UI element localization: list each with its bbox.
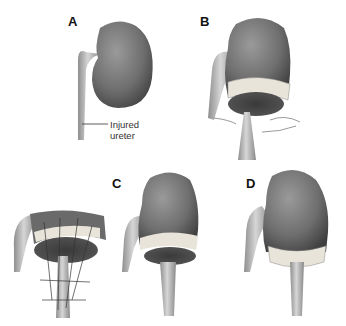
panel-c-closeup xyxy=(14,210,106,318)
panel-label-a: A xyxy=(68,14,77,29)
panel-label-d: D xyxy=(246,176,255,191)
ureter xyxy=(290,262,304,316)
panel-label-c: C xyxy=(112,176,121,191)
ureter xyxy=(238,112,256,160)
panel-c-kidney xyxy=(122,172,198,316)
sutures xyxy=(214,117,300,132)
annotation-line-1: Injured xyxy=(110,119,139,130)
panel-b-kidney xyxy=(208,18,300,160)
annotation-injured-ureter: Injured ureter xyxy=(110,119,139,141)
panel-d-kidney xyxy=(244,170,328,316)
cut-surface xyxy=(228,92,284,116)
kidney xyxy=(92,21,153,108)
kidney xyxy=(263,170,328,252)
ureter xyxy=(160,262,176,316)
surgical-illustration xyxy=(0,0,346,326)
annotation-line-2: ureter xyxy=(110,130,139,141)
panel-label-b: B xyxy=(200,14,209,29)
